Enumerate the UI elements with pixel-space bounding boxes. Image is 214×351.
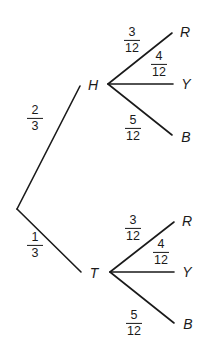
node-h-y: Y	[181, 77, 190, 91]
prob-t-y-num: 4	[157, 238, 166, 252]
branch-t-to-b	[110, 272, 174, 323]
node-h-b: B	[181, 130, 190, 144]
node-h: H	[88, 78, 98, 92]
prob-t-r-num: 3	[129, 214, 138, 228]
prob-h-y: 4 12	[151, 50, 167, 78]
prob-t-r: 3 12	[125, 214, 141, 242]
prob-t-r-den: 12	[126, 229, 140, 243]
prob-h: 2 3	[27, 104, 43, 132]
prob-h-b-den: 12	[126, 129, 140, 143]
prob-t-num: 1	[31, 231, 40, 245]
prob-t-y-den: 12	[154, 253, 168, 267]
tree-lines	[0, 0, 214, 351]
node-h-r: R	[180, 25, 190, 39]
prob-h-den: 3	[32, 119, 39, 133]
prob-t-b-den: 12	[127, 324, 141, 338]
node-t: T	[90, 266, 99, 280]
prob-t-b: 5 12	[126, 309, 142, 337]
node-t-y: Y	[182, 265, 191, 279]
prob-h-r-num: 3	[128, 26, 137, 40]
prob-h-b-num: 5	[129, 114, 138, 128]
prob-h-r-den: 12	[125, 41, 139, 55]
node-t-r: R	[182, 214, 192, 228]
prob-h-num: 2	[31, 104, 40, 118]
prob-h-y-num: 4	[155, 50, 164, 64]
prob-t: 1 3	[27, 231, 43, 259]
prob-t-b-num: 5	[130, 309, 139, 323]
prob-h-b: 5 12	[125, 114, 141, 142]
prob-t-y: 4 12	[153, 238, 169, 266]
prob-h-y-den: 12	[152, 65, 166, 79]
node-t-b: B	[183, 317, 192, 331]
prob-h-r: 3 12	[124, 26, 140, 54]
prob-t-den: 3	[32, 246, 39, 260]
